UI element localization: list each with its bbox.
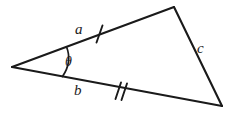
tick-mark-double-side-b-second: [122, 84, 128, 101]
side-label-a: a: [75, 22, 83, 37]
side-label-c: c: [197, 41, 204, 56]
triangle-side-c: [174, 7, 222, 106]
side-label-b: b: [74, 83, 82, 98]
geometry-figure: a b c θ: [0, 0, 237, 117]
tick-mark-double-side-b-first: [116, 83, 122, 100]
triangle-side-a: [12, 7, 174, 67]
triangle-drawing: [0, 0, 237, 117]
triangle-side-b: [12, 67, 222, 106]
angle-label-theta: θ: [65, 55, 72, 69]
